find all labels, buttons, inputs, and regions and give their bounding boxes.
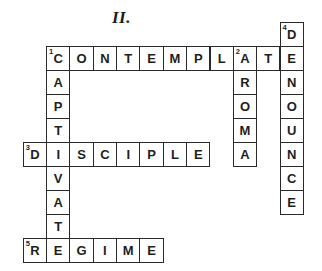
crossword-cell[interactable]: 2A bbox=[233, 46, 257, 71]
cell-letter: L bbox=[171, 147, 179, 162]
crossword-cell[interactable]: T bbox=[46, 214, 70, 239]
crossword-cell[interactable]: P bbox=[46, 94, 70, 119]
crossword-cell[interactable]: L bbox=[210, 46, 234, 71]
cell-letter: P bbox=[147, 147, 156, 162]
cell-letter: L bbox=[218, 51, 226, 66]
cell-letter: D bbox=[30, 147, 39, 162]
cell-letter: S bbox=[77, 147, 86, 162]
crossword-cell[interactable]: G bbox=[69, 238, 93, 263]
cell-letter: C bbox=[54, 51, 63, 66]
crossword-cell[interactable]: N bbox=[280, 70, 304, 95]
cell-letter: N bbox=[287, 147, 296, 162]
cell-letter: T bbox=[54, 123, 62, 138]
cell-letter: C bbox=[287, 171, 296, 186]
cell-letter: I bbox=[56, 147, 60, 162]
crossword-cell[interactable]: L bbox=[163, 142, 187, 167]
crossword-cell[interactable]: T bbox=[46, 118, 70, 143]
crossword-cell[interactable]: E bbox=[280, 190, 304, 215]
cell-letter: E bbox=[287, 51, 296, 66]
clue-number: 4 bbox=[283, 23, 287, 32]
cell-letter: T bbox=[54, 219, 62, 234]
cell-letter: A bbox=[54, 75, 63, 90]
cell-letter: C bbox=[100, 147, 109, 162]
cell-letter: P bbox=[194, 51, 203, 66]
cell-letter: V bbox=[54, 171, 63, 186]
cell-letter: E bbox=[194, 147, 203, 162]
cell-letter: O bbox=[287, 99, 297, 114]
crossword-cell[interactable]: A bbox=[46, 190, 70, 215]
cell-letter: A bbox=[54, 195, 63, 210]
clue-number: 3 bbox=[26, 143, 30, 152]
crossword-cell[interactable]: E bbox=[139, 238, 163, 263]
cell-letter: I bbox=[103, 243, 107, 258]
crossword-cell[interactable]: 5R bbox=[23, 238, 47, 263]
crossword-cell[interactable]: O bbox=[69, 46, 93, 71]
cell-letter: T bbox=[264, 51, 272, 66]
cell-letter: N bbox=[100, 51, 109, 66]
crossword-cell[interactable]: O bbox=[280, 94, 304, 119]
puzzle-title: II. bbox=[112, 8, 131, 28]
crossword-cell[interactable]: E bbox=[46, 238, 70, 263]
cell-letter: M bbox=[240, 123, 251, 138]
cell-letter: U bbox=[287, 123, 296, 138]
crossword-cell[interactable]: 1C bbox=[46, 46, 70, 71]
cell-letter: R bbox=[240, 75, 249, 90]
crossword-cell[interactable]: O bbox=[233, 94, 257, 119]
cell-letter: M bbox=[170, 51, 181, 66]
crossword-cell[interactable]: E bbox=[280, 46, 304, 71]
cell-letter: E bbox=[287, 195, 296, 210]
crossword-cell[interactable]: 4D bbox=[280, 22, 304, 47]
clue-number: 5 bbox=[26, 239, 30, 248]
crossword-cell[interactable]: E bbox=[139, 46, 163, 71]
cell-letter: P bbox=[54, 99, 63, 114]
crossword-cell[interactable]: P bbox=[139, 142, 163, 167]
crossword-cell[interactable]: T bbox=[256, 46, 280, 71]
clue-number: 1 bbox=[49, 47, 53, 56]
crossword-cell[interactable]: C bbox=[93, 142, 117, 167]
crossword-cell[interactable]: I bbox=[46, 142, 70, 167]
crossword-cell[interactable]: M bbox=[233, 118, 257, 143]
cell-letter: M bbox=[123, 243, 134, 258]
crossword-cell[interactable]: U bbox=[280, 118, 304, 143]
cell-letter: G bbox=[76, 243, 86, 258]
cell-letter: E bbox=[54, 243, 63, 258]
crossword-cell[interactable]: A bbox=[233, 142, 257, 167]
cell-letter: N bbox=[287, 75, 296, 90]
clue-number: 2 bbox=[236, 47, 240, 56]
crossword-cell[interactable]: N bbox=[280, 142, 304, 167]
crossword-cell[interactable]: C bbox=[280, 166, 304, 191]
crossword-cell[interactable]: A bbox=[46, 70, 70, 95]
cell-letter: O bbox=[76, 51, 86, 66]
cell-letter: A bbox=[240, 147, 249, 162]
cell-letter: R bbox=[30, 243, 39, 258]
crossword-cell[interactable]: 3D bbox=[23, 142, 47, 167]
crossword-cell[interactable]: P bbox=[186, 46, 210, 71]
crossword-cell[interactable]: S bbox=[69, 142, 93, 167]
crossword-cell[interactable]: T bbox=[116, 46, 140, 71]
crossword-cell[interactable]: E bbox=[186, 142, 210, 167]
crossword-cell[interactable]: M bbox=[163, 46, 187, 71]
crossword-cell[interactable]: I bbox=[93, 238, 117, 263]
cell-letter: O bbox=[240, 99, 250, 114]
cell-letter: E bbox=[147, 51, 156, 66]
crossword-cell[interactable]: I bbox=[116, 142, 140, 167]
cell-letter: A bbox=[240, 51, 249, 66]
cell-letter: I bbox=[126, 147, 130, 162]
cell-letter: T bbox=[124, 51, 132, 66]
crossword-cell[interactable]: V bbox=[46, 166, 70, 191]
crossword-cell[interactable]: N bbox=[93, 46, 117, 71]
cell-letter: E bbox=[147, 243, 156, 258]
crossword-cell[interactable]: R bbox=[233, 70, 257, 95]
crossword-cell[interactable]: M bbox=[116, 238, 140, 263]
cell-letter: D bbox=[287, 27, 296, 42]
